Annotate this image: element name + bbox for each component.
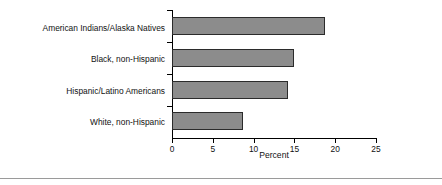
y-axis-tick-top [167, 10, 172, 11]
category-label-1: Black, non-Hispanic [4, 54, 169, 64]
bar-chart-figure: American Indians/Alaska Natives Black, n… [0, 0, 442, 185]
plot-area: 0 5 10 15 20 25 [172, 10, 376, 138]
y-axis-tick-2 [167, 74, 172, 75]
category-axis-labels: American Indians/Alaska Natives Black, n… [0, 0, 169, 140]
y-axis-tick-1 [167, 42, 172, 43]
x-axis-tick-4 [335, 138, 336, 143]
bottom-divider [0, 178, 442, 179]
x-axis-tick-0 [172, 138, 173, 143]
bar-black-non-hispanic [172, 49, 294, 67]
x-axis-tick-1 [213, 138, 214, 143]
y-axis-tick-3 [167, 106, 172, 107]
bar-white-non-hispanic [172, 112, 243, 130]
category-label-0: American Indians/Alaska Natives [4, 23, 169, 33]
x-axis-line [172, 138, 376, 139]
x-axis-tick-2 [254, 138, 255, 143]
category-label-3: White, non-Hispanic [4, 117, 169, 127]
category-label-2: Hispanic/Latino Americans [4, 86, 169, 96]
x-axis-tick-3 [294, 138, 295, 143]
x-axis-title: Percent [172, 150, 376, 160]
bar-american-indians-alaska-natives [172, 17, 325, 35]
x-axis-tick-5 [376, 138, 377, 143]
bar-hispanic-latino-americans [172, 81, 288, 99]
